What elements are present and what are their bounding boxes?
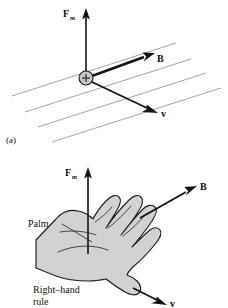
force-sublabel-b: m — [72, 173, 77, 180]
hand-shape — [36, 196, 161, 295]
palm-label: Palm — [28, 218, 49, 229]
velocity-vector-b — [133, 288, 167, 305]
force-label-b: F — [65, 167, 71, 178]
physics-figure: F m B v — [0, 0, 228, 308]
field-vector-b — [140, 186, 197, 218]
field-label-a: B — [157, 53, 164, 64]
field-arrow-head-b — [184, 186, 197, 196]
panel-a-caption: (a) — [6, 135, 16, 145]
force-vector-a — [82, 8, 90, 78]
field-vector-a — [92, 53, 155, 76]
panel-a-group: F m B v — [6, 8, 221, 145]
right-hand-rule-label-line1: Right–hand — [33, 284, 80, 295]
field-arrow-head-a — [143, 53, 156, 62]
force-sublabel-a: m — [70, 14, 75, 21]
force-label-a: F — [63, 8, 69, 19]
velocity-vector-a — [92, 82, 158, 113]
magnetic-field-lines — [12, 43, 221, 142]
charge-particle — [79, 71, 93, 85]
field-label-b: B — [200, 181, 207, 192]
right-hand-rule-label-line2: rule — [33, 296, 49, 307]
velocity-label-b: v — [170, 298, 175, 308]
field-line-4 — [52, 88, 221, 142]
velocity-label-a: v — [161, 108, 166, 119]
field-arrow-shaft-b — [140, 192, 186, 218]
field-line-1 — [12, 43, 176, 96]
figure-canvas: F m B v — [0, 0, 228, 308]
field-arrow-shaft-a — [92, 57, 144, 76]
panel-b-group: F m B v Palm Right–hand — [28, 167, 207, 308]
